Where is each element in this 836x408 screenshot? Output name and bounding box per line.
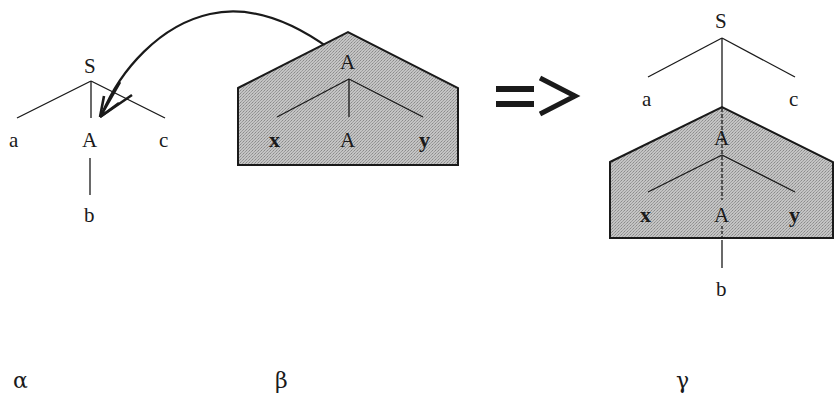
gamma-child-y: y [789, 202, 800, 227]
beta-root-label: A [340, 50, 356, 74]
beta-child-y: y [419, 127, 430, 152]
beta-tree: A x A y [238, 32, 458, 165]
caption-beta: β [275, 368, 288, 393]
gamma-child-x: x [640, 202, 651, 227]
gamma-edge-right [722, 38, 795, 77]
alpha-root-label: S [84, 54, 96, 78]
beta-child-x: x [269, 127, 280, 152]
alpha-leaf-b: b [84, 203, 95, 227]
gamma-foot-A: A [714, 203, 730, 227]
implies-bar-top [496, 86, 534, 92]
gamma-child-a: a [642, 87, 652, 111]
gamma-edge-left [648, 38, 722, 77]
captions: α β γ [13, 368, 689, 393]
alpha-child-A: A [82, 128, 98, 152]
caption-gamma: γ [676, 368, 689, 393]
alpha-edge-left [17, 81, 91, 118]
gamma-child-c: c [789, 87, 798, 111]
implies-chevron-icon [540, 78, 575, 114]
alpha-child-a: a [9, 128, 19, 152]
gamma-root-label: S [715, 9, 727, 33]
alpha-child-c: c [159, 128, 168, 152]
gamma-leaf-b: b [716, 277, 727, 301]
alpha-tree: S a A c b [9, 54, 168, 227]
caption-alpha: α [13, 368, 28, 393]
implies-bar-bottom [496, 101, 534, 107]
beta-foot-A: A [340, 128, 356, 152]
implies-operator [496, 78, 575, 114]
adjunction-diagram: S a A c b A x A y S a c [0, 0, 836, 408]
gamma-tree: S a c A x A y b [610, 9, 833, 301]
